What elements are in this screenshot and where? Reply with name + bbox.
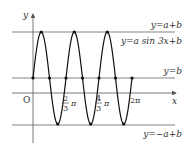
midline-point xyxy=(48,76,51,79)
peak-point xyxy=(106,30,109,33)
midline-point xyxy=(130,76,133,79)
trough-point xyxy=(89,122,92,125)
sine-graph: y x O y=a+b y=a sin 3x+b y=b y=−a+b 2 3 … xyxy=(0,0,188,149)
svg-text:4: 4 xyxy=(96,94,101,103)
y-axis-label: y xyxy=(22,10,29,20)
origin-label: O xyxy=(23,95,30,105)
curve-label: y=a sin 3x+b xyxy=(120,36,182,46)
svg-text:3: 3 xyxy=(96,104,101,113)
peak-point xyxy=(73,30,76,33)
svg-text:π: π xyxy=(70,99,77,108)
x-axis-label: x xyxy=(172,96,177,106)
trough-point xyxy=(56,122,59,125)
midline-point xyxy=(31,76,34,79)
svg-text:2: 2 xyxy=(63,94,68,103)
midline-point xyxy=(114,76,117,79)
midline-point xyxy=(97,76,100,79)
min-line-label: y=−a+b xyxy=(142,129,182,139)
max-line-label: y=a+b xyxy=(150,20,183,30)
tick-four-thirds-pi: 4 3 π xyxy=(95,94,110,113)
peak-point xyxy=(40,30,43,33)
svg-text:π: π xyxy=(103,99,110,108)
svg-text:3: 3 xyxy=(63,104,68,113)
midline-point xyxy=(64,76,67,79)
mid-line-label: y=b xyxy=(163,66,183,76)
trough-point xyxy=(122,122,125,125)
tick-two-thirds-pi: 2 3 π xyxy=(62,94,77,113)
tick-two-pi: 2π xyxy=(130,96,140,105)
midline-point xyxy=(81,76,84,79)
